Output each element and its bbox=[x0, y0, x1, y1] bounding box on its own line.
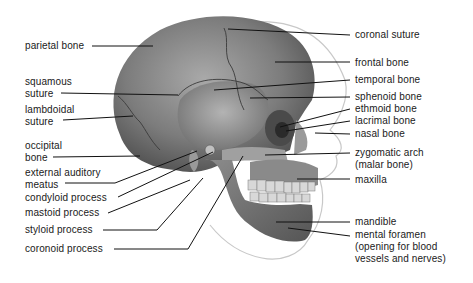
label-lacrimal-bone: lacrimal bone bbox=[355, 115, 416, 127]
label-occipital-bone: occipital bone bbox=[25, 140, 62, 164]
skull-diagram: parietal bone squamous suture lambdoidal… bbox=[0, 0, 473, 283]
label-mental-foramen: mental foramen (opening for blood vessel… bbox=[355, 229, 446, 265]
nasal-region bbox=[294, 120, 307, 155]
label-temporal-bone: temporal bone bbox=[355, 74, 420, 86]
label-coronoid-process: coronoid process bbox=[25, 243, 103, 255]
label-styloid-process: styloid process bbox=[25, 224, 93, 236]
label-mastoid-process: mastoid process bbox=[25, 207, 99, 219]
label-frontal-bone: frontal bone bbox=[355, 57, 409, 69]
label-ethmoid-bone: ethmoid bone bbox=[355, 103, 417, 115]
label-parietal-bone: parietal bone bbox=[25, 40, 84, 52]
label-nasal-bone: nasal bone bbox=[355, 128, 405, 140]
label-lambdoidal-suture: lambdoidal suture bbox=[25, 104, 74, 128]
label-maxilla: maxilla bbox=[355, 174, 387, 186]
label-mandible: mandible bbox=[355, 216, 396, 228]
label-external-auditory-meatus: external auditory meatus bbox=[25, 167, 101, 191]
label-coronal-suture: coronal suture bbox=[355, 29, 420, 41]
label-zygomatic-arch: zygomatic arch (malar bone) bbox=[355, 147, 424, 171]
label-squamous-suture: squamous suture bbox=[25, 76, 72, 100]
label-condyloid-process: condyloid process bbox=[25, 192, 107, 204]
label-sphenoid-bone: sphenoid bone bbox=[355, 91, 422, 103]
teeth bbox=[248, 180, 315, 202]
